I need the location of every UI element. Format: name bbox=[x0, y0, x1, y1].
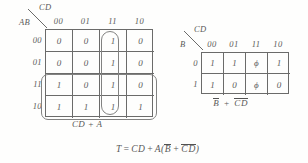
eq-plus1: + bbox=[145, 144, 155, 154]
eq-plus2: + bbox=[171, 144, 181, 154]
row-header-right-0: 0 bbox=[178, 52, 198, 73]
row-header-left-1: 01 bbox=[18, 51, 42, 73]
col-header-left-3: 10 bbox=[126, 15, 153, 27]
row-header-left-2: 11 bbox=[18, 73, 42, 95]
final-equation: T=CD+A(B+CD) bbox=[116, 144, 199, 155]
axis-label-cols-left: CD bbox=[39, 2, 51, 12]
caption-b-not: B bbox=[213, 98, 219, 108]
group-a-rows-rect bbox=[41, 74, 157, 120]
eq-close-paren: ) bbox=[196, 144, 199, 154]
kmap-left-cell-1-0: 0 bbox=[46, 52, 73, 74]
kmap-right-cell-0-3: 1 bbox=[268, 53, 290, 74]
caption-c-not: C bbox=[234, 98, 241, 108]
caption-plus: + bbox=[222, 98, 231, 108]
kmap-right-cell-1-1: 0 bbox=[224, 74, 246, 95]
col-header-right-2: 11 bbox=[245, 38, 267, 50]
col-header-left-1: 01 bbox=[72, 15, 99, 27]
kmap-right-cell-0-0: 1 bbox=[202, 53, 224, 74]
eq-sign: = bbox=[122, 144, 132, 154]
col-header-right-1: 01 bbox=[223, 38, 245, 50]
kmap-left-cell-1-3: 0 bbox=[127, 52, 154, 74]
kmap-right-cell-1-3: 0 bbox=[268, 74, 290, 95]
row-header-left-0: 00 bbox=[18, 29, 42, 51]
eq-c-not: C bbox=[181, 144, 188, 155]
col-header-left-2: 11 bbox=[99, 15, 126, 27]
row-header-left-3: 10 bbox=[18, 95, 42, 117]
axis-label-cols-right: CD bbox=[194, 24, 206, 34]
caption-d-not: D bbox=[241, 98, 248, 108]
kmap-left-cell-1-1: 0 bbox=[73, 52, 100, 74]
col-header-right-3: 10 bbox=[267, 38, 289, 50]
col-header-right-0: 00 bbox=[201, 38, 223, 50]
kmap-right-grid: 1 1 ϕ 1 1 0 ϕ 0 bbox=[201, 52, 289, 94]
eq-lhs: T bbox=[116, 144, 122, 154]
axis-label-rows-left: AB bbox=[19, 17, 30, 27]
karnaugh-map-figure: CD AB 00 01 11 10 00 01 11 10 0 0 1 0 0 … bbox=[0, 0, 308, 163]
row-header-right-1: 1 bbox=[178, 73, 198, 94]
col-header-left-0: 00 bbox=[45, 15, 72, 27]
kmap-left-caption: CD + A bbox=[72, 119, 102, 129]
kmap-left-cell-0-3: 0 bbox=[127, 30, 154, 52]
kmap-left-cell-0-1: 0 bbox=[73, 30, 100, 52]
kmap-right-cell-1-2: ϕ bbox=[246, 74, 268, 95]
eq-term1: CD bbox=[131, 144, 145, 154]
kmap-right-cell-0-1: 1 bbox=[224, 53, 246, 74]
kmap-right-cell-0-2: ϕ bbox=[246, 53, 268, 74]
axis-label-rows-right: B bbox=[180, 39, 186, 49]
eq-d-not: D bbox=[188, 144, 196, 155]
kmap-right-caption: B + CD bbox=[213, 98, 248, 108]
kmap-left-cell-0-0: 0 bbox=[46, 30, 73, 52]
kmap-right-cell-1-0: 1 bbox=[202, 74, 224, 95]
